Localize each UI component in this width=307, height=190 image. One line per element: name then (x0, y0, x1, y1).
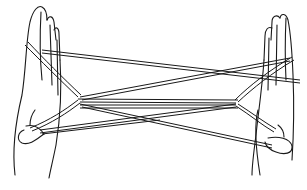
right-hand (252, 14, 294, 175)
line-drawing (0, 0, 307, 190)
left-hand (14, 7, 61, 178)
string-figure-illustration (0, 0, 307, 190)
string-loops (25, 42, 300, 148)
